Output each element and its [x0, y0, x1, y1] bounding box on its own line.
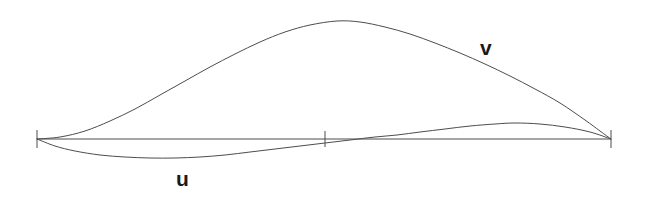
curve-label-u: u: [176, 168, 189, 189]
curve-label-v: v: [480, 37, 492, 58]
curve-v-path: [37, 21, 611, 139]
diagram-canvas: [0, 0, 646, 198]
curve-diagram-figure: v u: [0, 0, 646, 198]
curve-u-path: [37, 123, 611, 158]
axis-group: [37, 130, 611, 148]
curve-group: [37, 21, 611, 158]
